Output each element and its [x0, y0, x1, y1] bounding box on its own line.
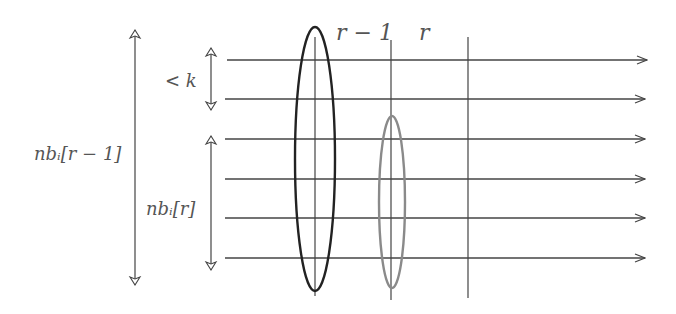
- diagram-canvas: r − 1 r < k nbᵢ[r − 1] nbᵢ[r]: [0, 0, 676, 314]
- process-lines: [225, 60, 647, 258]
- round-dividers: [315, 37, 468, 300]
- column-label-r-minus-1: r − 1: [336, 20, 393, 45]
- round-ellipses: [295, 27, 405, 291]
- column-label-r: r: [419, 20, 431, 45]
- ellipse-round-r: [379, 116, 405, 288]
- nb-curr-label: nbᵢ[r]: [146, 198, 196, 219]
- nb-prev-label: nbᵢ[r − 1]: [34, 143, 122, 164]
- measure-arrows: [135, 30, 211, 285]
- gap-k-label: < k: [165, 70, 197, 91]
